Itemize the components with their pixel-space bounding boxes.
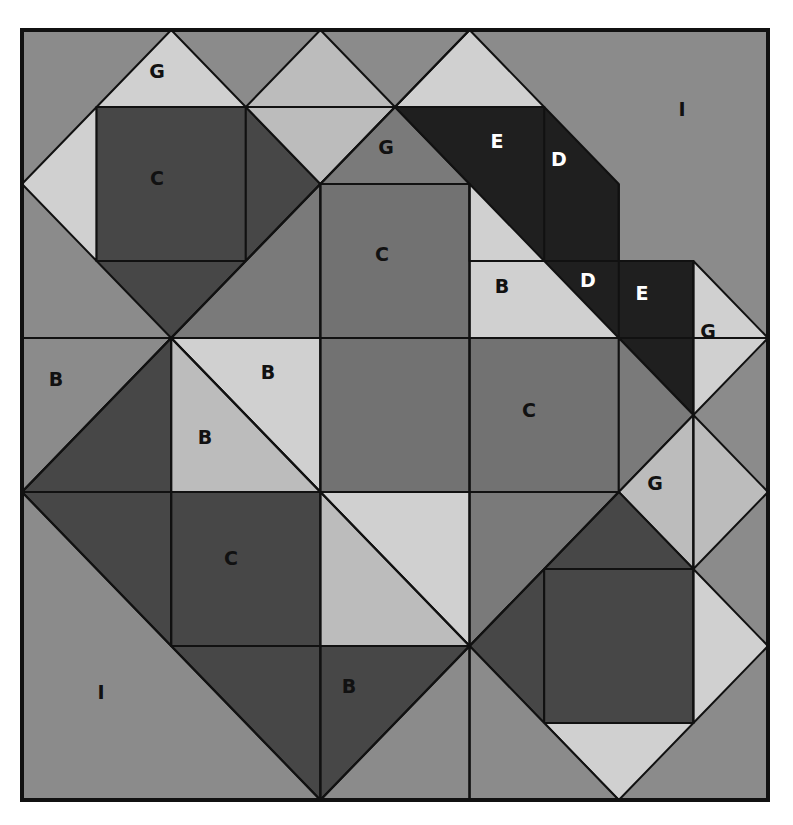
- piece-label-b: B: [261, 361, 275, 383]
- piece-label-g: G: [647, 472, 663, 494]
- piece-label-b: B: [495, 275, 509, 297]
- piece-label-e: E: [491, 130, 504, 152]
- piece-label-c: C: [375, 243, 389, 265]
- piece-tl-c: [97, 107, 246, 261]
- piece-label-d: D: [580, 269, 596, 291]
- piece-label-b: B: [198, 426, 212, 448]
- piece-c-center-top: [320, 184, 469, 338]
- piece-bl-c: [171, 492, 320, 646]
- piece-label-c: C: [150, 167, 164, 189]
- piece-c-center: [320, 338, 469, 492]
- piece-label-i: I: [97, 681, 104, 703]
- piece-label-c: C: [224, 547, 238, 569]
- piece-label-e: E: [636, 282, 649, 304]
- piece-label-g: G: [378, 136, 394, 158]
- piece-label-g: G: [149, 60, 165, 82]
- piece-label-g: G: [700, 320, 716, 342]
- quilt-block-diagram: GCGEDICBDEGBBBCGCIB: [0, 0, 793, 825]
- piece-br-c: [544, 569, 693, 723]
- piece-label-i: I: [678, 98, 685, 120]
- piece-label-d: D: [551, 148, 567, 170]
- piece-c-right: [470, 338, 619, 492]
- piece-label-b: B: [342, 675, 356, 697]
- piece-label-c: C: [522, 399, 536, 421]
- piece-label-b: B: [49, 368, 63, 390]
